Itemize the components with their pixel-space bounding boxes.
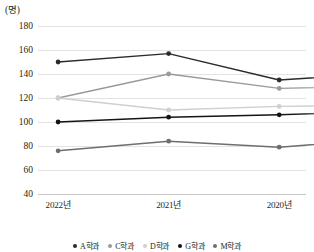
legend-item-label: G학과 xyxy=(185,240,204,251)
data-point xyxy=(56,120,61,125)
y-axis-tick-label: 120 xyxy=(0,93,33,103)
series-line xyxy=(58,111,314,122)
data-point xyxy=(56,148,61,153)
y-axis-tick-label: 100 xyxy=(0,117,33,127)
data-point xyxy=(277,112,282,117)
legend-item[interactable]: D학과 xyxy=(143,240,169,251)
legend-item[interactable]: G학과 xyxy=(178,240,204,251)
legend-marker-icon xyxy=(178,244,182,248)
data-point xyxy=(166,115,171,120)
x-axis-tick-label: 2022년 xyxy=(46,198,71,211)
x-axis-line xyxy=(38,194,306,195)
y-axis-tick-label: 80 xyxy=(0,141,33,151)
line-chart: (명) 180160140120100806040 2022년2021년2020… xyxy=(0,0,314,252)
legend-item[interactable]: A학과 xyxy=(73,240,99,251)
data-point xyxy=(166,51,171,56)
y-axis-tick-label: 40 xyxy=(0,189,33,199)
x-axis-tick-label: 2020년 xyxy=(267,198,292,211)
legend-item-label: M학과 xyxy=(220,240,241,251)
data-point xyxy=(277,104,282,109)
y-axis-tick-label: 160 xyxy=(0,45,33,55)
legend-item-label: D학과 xyxy=(150,240,169,251)
data-point xyxy=(166,72,171,77)
plot-area: 180160140120100806040 2022년2021년2020년201… xyxy=(38,26,306,194)
legend-marker-icon xyxy=(213,244,217,248)
series-line xyxy=(58,136,314,150)
legend-item[interactable]: M학과 xyxy=(213,240,241,251)
y-axis-tick-label: 60 xyxy=(0,165,33,175)
legend-item[interactable]: C학과 xyxy=(108,240,134,251)
series-line xyxy=(58,98,314,114)
series-layer xyxy=(38,26,306,194)
chart-legend: A학과C학과D학과G학과M학과 xyxy=(0,240,314,251)
data-point xyxy=(166,139,171,144)
data-point xyxy=(277,145,282,150)
legend-marker-icon xyxy=(73,244,77,248)
legend-item-label: C학과 xyxy=(115,240,134,251)
data-point xyxy=(277,78,282,83)
data-point xyxy=(166,108,171,113)
legend-marker-icon xyxy=(108,244,112,248)
data-point xyxy=(56,60,61,65)
y-axis-tick-label: 180 xyxy=(0,21,33,31)
legend-item-label: A학과 xyxy=(80,240,99,251)
data-point xyxy=(56,96,61,101)
data-point xyxy=(277,86,282,91)
y-axis-unit-label: (명) xyxy=(5,2,20,16)
x-axis-tick-label: 2021년 xyxy=(156,198,181,211)
series-line xyxy=(58,74,314,98)
legend-marker-icon xyxy=(143,244,147,248)
y-axis-tick-label: 140 xyxy=(0,69,33,79)
